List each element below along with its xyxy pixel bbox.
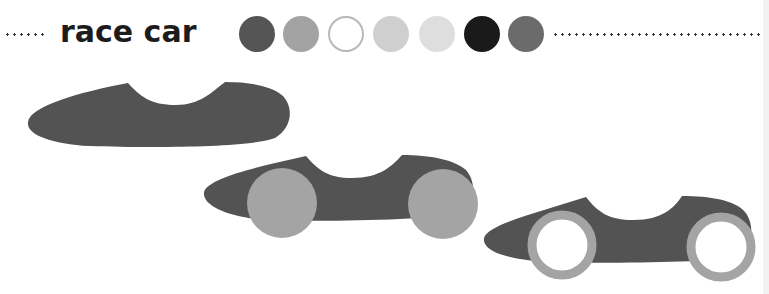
wheel-solid-front [408,169,478,239]
car-step-3 [484,196,751,277]
drawing-steps [0,0,769,294]
wheel-ring-rear [532,215,592,275]
car-body-step-1 [28,82,290,147]
wheel-solid-rear [247,168,317,238]
car-body [28,82,290,147]
car-step-2 [204,155,478,239]
wheel-ring-front [691,217,751,277]
